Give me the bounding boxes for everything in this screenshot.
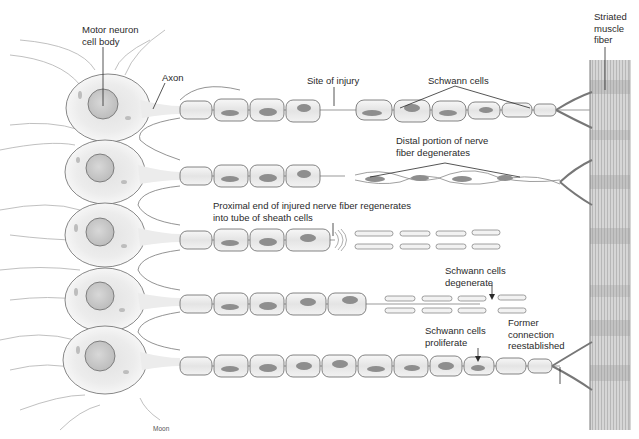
label-line: Axon <box>162 72 184 84</box>
label-line: Schwann cells <box>428 75 489 87</box>
label-line: Former <box>508 317 565 329</box>
label-proximal-regenerates: Proximal end of injured nerve fiber rege… <box>213 200 411 223</box>
fiber-row-2 <box>180 160 592 205</box>
label-line: fiber degenerates <box>396 147 488 159</box>
label-line: proliferate <box>425 337 486 349</box>
label-schwann-cells: Schwann cells <box>428 75 489 87</box>
label-schwann-proliferate: Schwann cells proliferate <box>425 325 486 348</box>
fiber-row-4 <box>180 293 526 315</box>
label-distal-degenerates: Distal portion of nerve fiber degenerate… <box>396 135 488 158</box>
label-line: Schwann cells <box>425 325 486 337</box>
artist-credit: Moon <box>153 425 169 432</box>
label-striated-muscle-fiber: Striated muscle fiber <box>594 11 627 46</box>
label-line: degenerate <box>445 277 506 289</box>
fiber-row-1 <box>180 92 592 128</box>
label-former-connection: Former connection reestablished <box>508 317 565 352</box>
label-line: reestablished <box>508 340 565 352</box>
fiber-row-3 <box>180 229 500 251</box>
label-line: connection <box>508 329 565 341</box>
nerve-regeneration-diagram: Motor neuron cell body Axon Site of inju… <box>0 0 639 439</box>
label-line: cell body <box>82 36 139 48</box>
label-motor-neuron-cell-body: Motor neuron cell body <box>82 24 139 47</box>
label-line: Motor neuron <box>82 24 139 36</box>
label-line: Schwann cells <box>445 265 506 277</box>
label-axon: Axon <box>162 72 184 84</box>
label-line: fiber <box>594 34 627 46</box>
label-schwann-degenerate: Schwann cells degenerate <box>445 265 506 288</box>
label-line: into tube of sheath cells <box>213 212 411 224</box>
striated-muscle-fiber <box>590 60 630 430</box>
label-line: muscle <box>594 23 627 35</box>
label-line: Striated <box>594 11 627 23</box>
label-site-of-injury: Site of injury <box>307 75 359 87</box>
label-line: Site of injury <box>307 75 359 87</box>
label-line: Distal portion of nerve <box>396 135 488 147</box>
label-line: Proximal end of injured nerve fiber rege… <box>213 200 411 212</box>
